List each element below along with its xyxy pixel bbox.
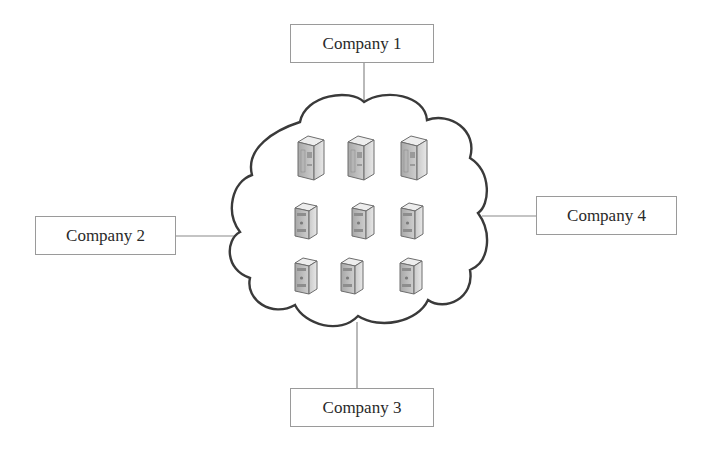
server-icon: [401, 136, 427, 180]
server-icon: [348, 136, 374, 180]
server-icon: [400, 258, 422, 294]
server-icon: [298, 136, 324, 180]
node-company-1: Company 1: [290, 24, 434, 63]
node-label: Company 3: [323, 398, 402, 418]
node-label: Company 2: [66, 226, 145, 246]
server-icon: [341, 258, 363, 294]
node-company-2: Company 2: [35, 216, 176, 255]
node-label: Company 4: [567, 206, 646, 226]
server-icon: [401, 203, 423, 239]
node-label: Company 1: [323, 34, 402, 54]
server-icon: [295, 203, 317, 239]
node-company-4: Company 4: [536, 196, 677, 235]
node-company-3: Company 3: [290, 388, 434, 427]
server-icon: [352, 203, 374, 239]
server-icon: [295, 258, 317, 294]
